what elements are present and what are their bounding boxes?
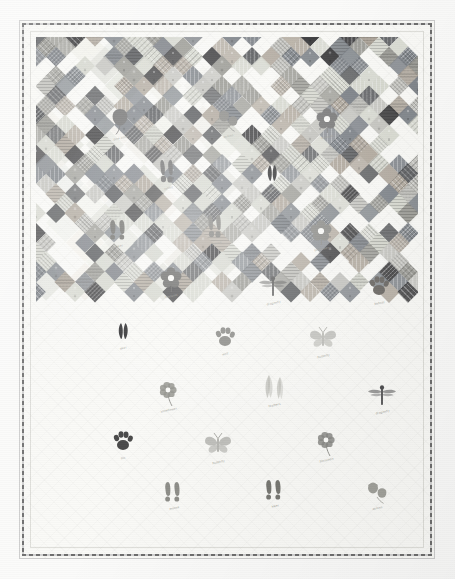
applique-label: wolf: [222, 351, 229, 356]
diamond-fabric: [36, 203, 46, 223]
applique-flower-stem: coneflower: [153, 378, 183, 408]
quilt: pine coneblossomacornsrabbitdeergrousehi…: [20, 21, 434, 558]
applique-paw-print-3: fox: [108, 426, 138, 456]
applique-deer-track-2: deer: [108, 316, 138, 346]
applique-flower-blossom: blossom: [312, 105, 342, 135]
applique-label: butterfly: [212, 459, 225, 466]
applique-dragonfly: dragonfly: [258, 271, 288, 301]
applique-label: moose: [169, 505, 180, 511]
applique-feather-pair: feathers: [259, 373, 289, 403]
chain-diamond: [36, 203, 46, 223]
applique-butterfly: butterfly: [308, 324, 338, 354]
applique-dragonfly-2: dragonfly: [367, 380, 397, 410]
applique-label: rabbit: [164, 185, 173, 191]
applique-butterfly-2: butterfly: [203, 430, 233, 460]
applique-label: fox: [121, 456, 126, 461]
applique-label: feathers: [268, 402, 281, 409]
applique-boot-prints-2: hiker: [260, 474, 290, 504]
applique-paw-print-2: wolf: [210, 322, 240, 352]
applique-bird-tracks: grouse: [201, 211, 231, 241]
applique-bell-flower: bellflower: [306, 217, 336, 247]
quilt-photograph: pine coneblossomacornsrabbitdeergrousehi…: [0, 0, 455, 579]
applique-flower-blossom-2: blossom: [156, 264, 186, 294]
pieced-chain-field: pine coneblossomacornsrabbitdeergrousehi…: [36, 37, 418, 542]
applique-label: deer: [120, 345, 127, 350]
applique-moose-track: moose: [159, 476, 189, 506]
applique-rabbit-tracks: rabbit: [153, 156, 183, 186]
applique-pine-cone: pine cone: [105, 106, 135, 136]
applique-label: acorns: [372, 505, 383, 511]
applique-deer-track: deer: [257, 158, 287, 188]
applique-label: butterfly: [317, 353, 330, 360]
applique-boot-prints: hiker: [104, 214, 134, 244]
applique-acorn-pair-2: acorns: [362, 476, 392, 506]
applique-label: hiker: [271, 503, 279, 508]
applique-paw-print: bobcat: [364, 271, 394, 301]
applique-label: bobcat: [374, 300, 385, 306]
applique-acorn-pair: acorns: [213, 104, 243, 134]
applique-flower-cluster: blossoms: [311, 428, 341, 458]
